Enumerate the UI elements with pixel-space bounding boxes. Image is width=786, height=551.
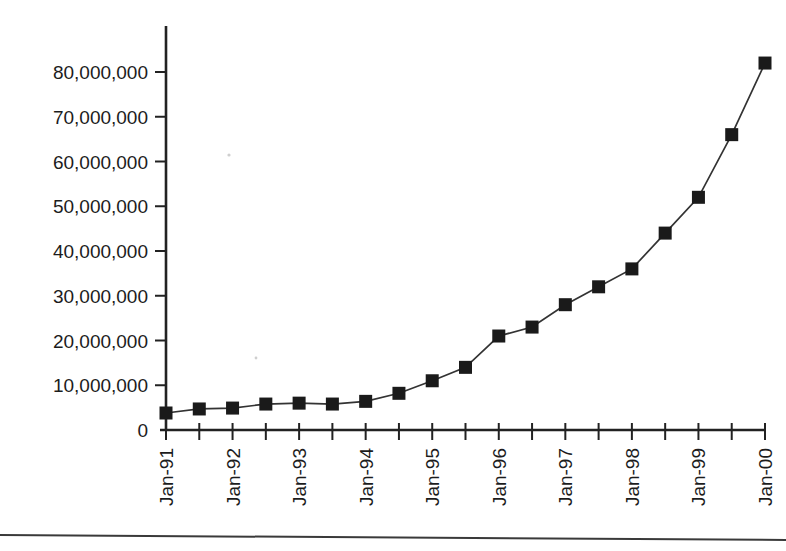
x-tick-label: Jan-94 (356, 448, 377, 507)
data-point-marker (392, 387, 405, 400)
x-tick-label: Jan-91 (156, 448, 177, 506)
y-tick-label: 70,000,000 (53, 107, 148, 128)
scan-speck (255, 357, 258, 360)
y-tick-label: 10,000,000 (53, 375, 148, 396)
chart-figure: 010,000,00020,000,00030,000,00040,000,00… (0, 0, 786, 551)
line-chart-canvas: 010,000,00020,000,00030,000,00040,000,00… (0, 0, 786, 551)
data-point-marker (293, 397, 306, 410)
y-tick-label: 60,000,000 (53, 152, 148, 173)
x-tick-label: Jan-99 (688, 448, 709, 506)
x-tick-label: Jan-98 (622, 448, 643, 506)
x-tick-label: Jan-95 (422, 448, 443, 506)
data-point-marker (526, 321, 539, 334)
x-tick-label: Jan-00 (755, 448, 776, 506)
y-tick-label: 50,000,000 (53, 196, 148, 217)
data-point-marker (692, 191, 705, 204)
data-point-marker (226, 402, 239, 415)
y-tick-label: 40,000,000 (53, 241, 148, 262)
x-tick-label: Jan-97 (555, 448, 576, 506)
data-point-marker (459, 361, 472, 374)
x-tick-label: Jan-96 (489, 448, 510, 506)
y-tick-label: 0 (137, 420, 148, 441)
data-point-marker (592, 280, 605, 293)
y-tick-label: 80,000,000 (53, 62, 148, 83)
data-point-marker (492, 330, 505, 343)
data-point-marker (426, 374, 439, 387)
data-point-marker (259, 398, 272, 411)
y-tick-label: 20,000,000 (53, 331, 148, 352)
x-tick-label: Jan-93 (289, 448, 310, 506)
data-point-marker (160, 407, 173, 420)
scan-speck (227, 153, 230, 156)
data-point-marker (326, 398, 339, 411)
data-point-marker (193, 402, 206, 415)
x-tick-label: Jan-92 (223, 448, 244, 506)
data-point-marker (359, 395, 372, 408)
data-point-marker (559, 298, 572, 311)
y-tick-label: 30,000,000 (53, 286, 148, 307)
data-point-marker (659, 227, 672, 240)
data-point-marker (625, 262, 638, 275)
y-axis-tick-labels: 010,000,00020,000,00030,000,00040,000,00… (53, 62, 148, 441)
data-point-marker (759, 57, 772, 70)
data-point-marker (725, 128, 738, 141)
